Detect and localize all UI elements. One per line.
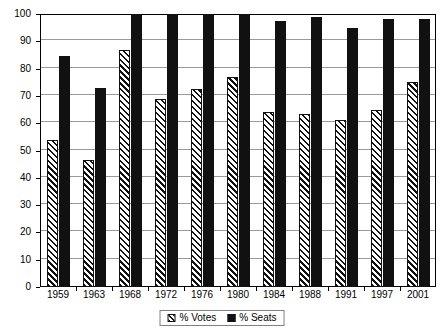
bar-seats (95, 88, 106, 287)
bars-layer (40, 14, 436, 287)
x-tick-mark (400, 287, 401, 291)
x-tick-label: 1972 (155, 290, 177, 300)
bar-votes (371, 110, 382, 287)
x-axis: 1959196319681972197619801984198819911997… (40, 290, 436, 308)
bar-group (400, 14, 436, 287)
legend-entry: % Seats (227, 313, 276, 323)
x-tick-label: 1991 (335, 290, 357, 300)
bar-seats (131, 14, 142, 287)
bar-seats (383, 19, 394, 287)
hatched-swatch (168, 314, 176, 322)
y-tick-mark (36, 287, 40, 288)
x-tick-mark (112, 287, 113, 291)
bar-group (220, 14, 256, 287)
y-tick-label: 50 (20, 146, 31, 156)
bar-votes (263, 112, 274, 287)
x-tick-mark (256, 287, 257, 291)
y-tick-label: 90 (20, 36, 31, 46)
bar-group (184, 14, 220, 287)
bar-votes (227, 77, 238, 287)
x-tick-mark (220, 287, 221, 291)
bar-seats (239, 14, 250, 287)
bar-votes (119, 50, 130, 288)
bar-votes (407, 82, 418, 287)
bar-group (40, 14, 76, 287)
bar-votes (335, 120, 346, 287)
y-tick-label: 20 (20, 227, 31, 237)
x-tick-mark (364, 287, 365, 291)
y-tick-label: 80 (20, 64, 31, 74)
x-tick-label: 1984 (263, 290, 285, 300)
y-tick-label: 30 (20, 200, 31, 210)
bar-seats (59, 56, 70, 287)
x-tick-label: 1997 (371, 290, 393, 300)
bar-chart: 0102030405060708090100 19591963196819721… (0, 0, 444, 331)
bar-votes (191, 89, 202, 287)
y-tick-label: 70 (20, 91, 31, 101)
legend-label: % Votes (180, 313, 217, 323)
bar-seats (203, 14, 214, 287)
bar-group (112, 14, 148, 287)
x-tick-label: 1988 (299, 290, 321, 300)
bar-group (292, 14, 328, 287)
y-tick-label: 0 (25, 282, 31, 292)
bar-seats (347, 28, 358, 287)
y-tick-label: 100 (14, 9, 31, 19)
x-tick-label: 1980 (227, 290, 249, 300)
x-tick-mark (184, 287, 185, 291)
bar-votes (83, 160, 94, 287)
bar-seats (419, 19, 430, 287)
chart-legend: % Votes% Seats (160, 310, 285, 326)
y-tick-label: 40 (20, 173, 31, 183)
bar-seats (275, 21, 286, 287)
y-tick-label: 60 (20, 118, 31, 128)
y-tick-label: 10 (20, 255, 31, 265)
legend-entry: % Votes (168, 313, 217, 323)
bar-group (364, 14, 400, 287)
bar-group (148, 14, 184, 287)
solid-black-swatch (227, 314, 235, 322)
x-tick-label: 1968 (119, 290, 141, 300)
bar-votes (47, 140, 58, 287)
bar-group (76, 14, 112, 287)
x-tick-mark (76, 287, 77, 291)
x-tick-label: 1963 (83, 290, 105, 300)
x-tick-label: 1959 (47, 290, 69, 300)
legend-label: % Seats (239, 313, 276, 323)
bar-group (256, 14, 292, 287)
bar-seats (167, 14, 178, 287)
bar-votes (155, 99, 166, 287)
bar-votes (299, 114, 310, 287)
bar-group (328, 14, 364, 287)
bar-seats (311, 17, 322, 287)
x-tick-mark (292, 287, 293, 291)
x-tick-label: 2001 (407, 290, 429, 300)
x-tick-mark (148, 287, 149, 291)
x-tick-mark (328, 287, 329, 291)
y-axis: 0102030405060708090100 (0, 14, 36, 287)
x-tick-label: 1976 (191, 290, 213, 300)
